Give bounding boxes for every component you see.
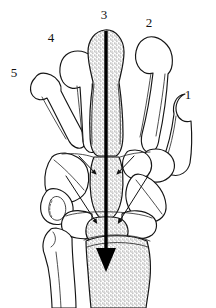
digit-label-1: 1 bbox=[185, 87, 192, 102]
hand-skeleton-figure: 3 2 4 5 1 bbox=[0, 0, 216, 308]
digit-label-4: 4 bbox=[48, 30, 55, 45]
hand-skeleton-illustration: 3 2 4 5 1 bbox=[0, 0, 216, 308]
distal-radius-shaded bbox=[86, 236, 150, 308]
digit-label-2: 2 bbox=[146, 15, 153, 30]
digit-label-5: 5 bbox=[11, 65, 18, 80]
radius-group bbox=[86, 236, 150, 308]
digit-label-3: 3 bbox=[101, 7, 108, 22]
